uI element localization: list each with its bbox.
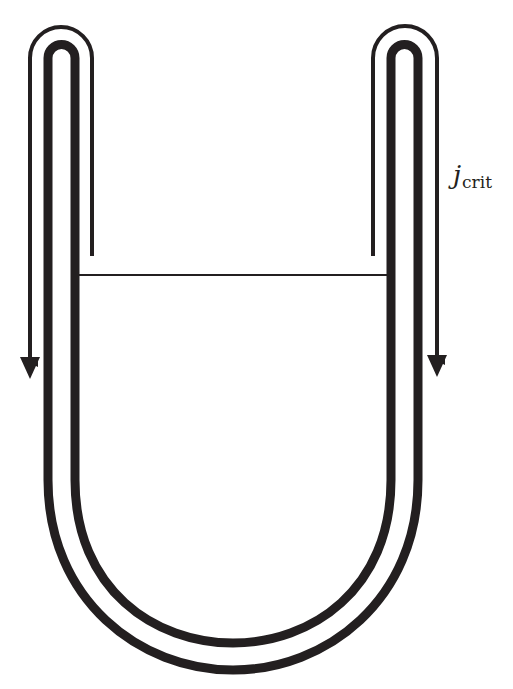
current-subscript: crit xyxy=(462,172,492,192)
left-current-path xyxy=(30,27,92,362)
tube-inner-wall xyxy=(75,58,391,643)
u-tube-diagram xyxy=(0,0,513,689)
right-current-path xyxy=(373,26,437,360)
right-arm-cap xyxy=(391,44,418,58)
right-arrowhead-icon xyxy=(427,355,447,377)
tube-walls xyxy=(48,44,418,670)
current-symbol: j xyxy=(453,160,461,190)
left-arrowhead-icon xyxy=(20,357,40,379)
critical-current-label: jcrit xyxy=(453,160,492,190)
left-arm-cap xyxy=(48,44,75,58)
